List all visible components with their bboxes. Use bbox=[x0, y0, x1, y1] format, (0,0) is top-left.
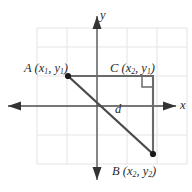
point-label-A-name: A bbox=[24, 61, 31, 75]
grid-lines bbox=[37, 28, 187, 164]
point-label-A-coords: (x1, y1) bbox=[35, 61, 68, 75]
y-axis-arrow-down-icon bbox=[93, 167, 102, 180]
x-axis-arrow-right-icon bbox=[163, 102, 176, 111]
segment-AB-hypotenuse bbox=[68, 76, 153, 154]
point-label-C-coords: (x2, y1) bbox=[121, 61, 154, 75]
sub-y: 1 bbox=[60, 67, 64, 76]
var-x: x bbox=[127, 164, 133, 178]
sub-x: 1 bbox=[44, 67, 48, 76]
x-axis-label: x bbox=[180, 99, 186, 112]
sub-y: 2 bbox=[148, 170, 152, 179]
point-B-dot bbox=[150, 151, 156, 157]
distance-label-d: d bbox=[115, 103, 121, 116]
point-label-A: A (x1, y1) bbox=[24, 62, 68, 75]
point-label-C-name: C bbox=[110, 61, 118, 75]
sub-x: 2 bbox=[133, 170, 137, 179]
diagram-canvas bbox=[0, 0, 192, 192]
right-angle-square-icon bbox=[142, 76, 153, 87]
coordinate-plane-figure: A (x1, y1) C (x2, y1) B (x2, y2) d x y bbox=[0, 0, 192, 192]
y-axis-label: y bbox=[100, 9, 106, 22]
point-label-B-coords: (x2, y2) bbox=[123, 164, 156, 178]
paren-close: ) bbox=[151, 61, 155, 75]
right-angle-marker-icon bbox=[142, 76, 153, 87]
triangle bbox=[68, 76, 154, 155]
point-label-B: B (x2, y2) bbox=[112, 165, 156, 178]
sub-x: 2 bbox=[131, 67, 135, 76]
paren-close: ) bbox=[152, 164, 156, 178]
sub-y: 1 bbox=[147, 67, 151, 76]
paren-close: ) bbox=[64, 61, 68, 75]
point-label-C: C (x2, y1) bbox=[110, 62, 155, 75]
point-label-B-name: B bbox=[112, 164, 120, 178]
x-axis-arrow-left-icon bbox=[8, 102, 21, 111]
